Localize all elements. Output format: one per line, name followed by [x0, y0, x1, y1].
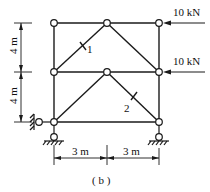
dimension-label-left: 3 m [72, 145, 89, 157]
supports [30, 114, 169, 145]
node-left-support [36, 119, 43, 126]
node-mid-left [51, 69, 58, 76]
node-top-left [51, 20, 58, 27]
node-bottom-right-support [156, 134, 163, 141]
truss-diagram: 10 kN 10 kN 1 2 4 m 4 m 3 m 3 m ( b ) [0, 0, 210, 192]
node-bottom-left-support [51, 134, 58, 141]
member-1-label: 1 [87, 43, 93, 55]
lower-left-diagonal [54, 72, 107, 122]
member-2-label: 2 [124, 102, 130, 114]
load-label-top: 10 kN [173, 6, 200, 18]
node-top-center [104, 20, 111, 27]
node-mid-center [104, 69, 111, 76]
figure-caption: ( b ) [92, 174, 111, 187]
dimension-label-lower: 4 m [7, 87, 19, 104]
node-top-right [156, 20, 163, 27]
upper-right-diagonal [107, 23, 159, 72]
dimension-label-right: 3 m [123, 145, 140, 157]
node-bottom-left [51, 119, 58, 126]
node-mid-right [156, 69, 163, 76]
load-label-middle: 10 kN [173, 55, 200, 67]
dimension-label-upper: 4 m [7, 37, 19, 54]
member-1 [54, 23, 107, 72]
node-bottom-right [156, 119, 163, 126]
